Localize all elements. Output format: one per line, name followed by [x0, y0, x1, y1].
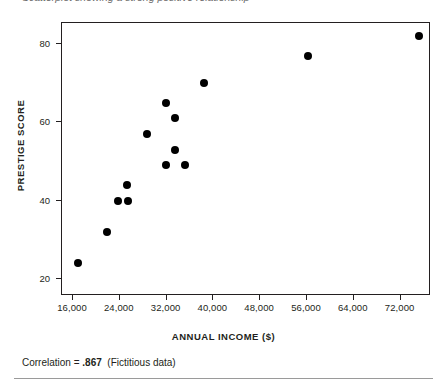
y-tick-mark: [56, 278, 61, 279]
x-tick-label: 40,000: [198, 302, 228, 313]
data-point: [124, 197, 132, 205]
data-point: [171, 114, 179, 122]
y-tick-mark: [56, 121, 61, 122]
data-point: [415, 32, 423, 40]
x-tick-mark: [353, 295, 354, 300]
caption-correlation-value: .867: [82, 357, 101, 368]
x-tick-label: 32,000: [151, 302, 181, 313]
x-tick-label: 72,000: [385, 302, 415, 313]
footer-divider: [14, 378, 433, 379]
x-tick-mark: [72, 295, 73, 300]
plot-area: [61, 22, 430, 295]
y-tick-mark: [56, 200, 61, 201]
data-point: [200, 79, 208, 87]
x-tick-mark: [259, 295, 260, 300]
data-point: [181, 161, 189, 169]
x-tick-mark: [212, 295, 213, 300]
caption-prefix: Correlation =: [22, 357, 82, 368]
x-tick-label: 56,000: [291, 302, 321, 313]
x-axis-title: ANNUAL INCOME ($): [0, 331, 447, 342]
x-tick-mark: [306, 295, 307, 300]
x-tick-mark: [166, 295, 167, 300]
data-point: [74, 259, 82, 267]
y-tick-label: 20: [20, 273, 50, 284]
caption-note: (Fictitious data): [107, 357, 175, 368]
scatterplot-figure: 16,00024,00032,00040,00048,00056,00064,0…: [0, 0, 447, 386]
data-point: [114, 197, 122, 205]
data-point: [143, 130, 151, 138]
data-point: [162, 161, 170, 169]
data-point: [103, 228, 111, 236]
x-tick-label: 24,000: [104, 302, 134, 313]
data-point: [171, 146, 179, 154]
figure-caption: Correlation = .867 (Fictitious data): [22, 357, 176, 368]
x-tick-label: 16,000: [57, 302, 87, 313]
y-tick-mark: [56, 43, 61, 44]
data-point: [304, 52, 312, 60]
y-axis-title: PRESTIGE SCORE: [15, 76, 26, 216]
data-point: [123, 181, 131, 189]
x-tick-label: 64,000: [338, 302, 368, 313]
x-tick-label: 48,000: [244, 302, 274, 313]
data-point: [162, 99, 170, 107]
y-tick-label: 80: [20, 38, 50, 49]
x-tick-mark: [119, 295, 120, 300]
x-tick-mark: [400, 295, 401, 300]
